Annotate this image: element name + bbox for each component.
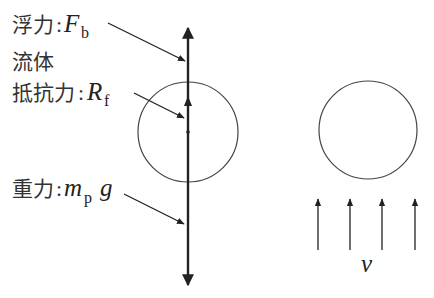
svg-text:重力: 重力 [12,177,54,201]
svg-text::: : [56,176,62,201]
svg-text:浮力: 浮力 [12,13,54,37]
svg-text:g: g [100,174,113,201]
fluid-force-diagram: 浮力 : F b 流体 抵抗力 : R f 重力 : m p g v [0,0,434,298]
gravity-label: 重力 : m p g [12,174,113,207]
buoyancy-label: 浮力 : F b [12,10,89,41]
drag-label: 流体 抵抗力 : R f [12,50,110,109]
svg-text:f: f [104,92,110,109]
svg-text::: : [78,80,84,105]
buoyancy-leader-arrow [108,23,185,61]
svg-text:流体: 流体 [12,50,54,74]
particle-center-dot [186,130,190,134]
svg-text:R: R [86,78,102,105]
svg-text:b: b [81,24,89,41]
gravity-leader-arrow [124,194,184,224]
velocity-label: v [361,250,373,277]
svg-text::: : [56,12,62,37]
flow-velocity-arrows [318,199,415,250]
svg-text:p: p [84,189,92,207]
drag-force-arrowhead [184,96,192,106]
svg-text:F: F [63,10,80,37]
svg-text:m: m [64,174,82,201]
particle-circle-right [319,81,417,179]
svg-text:抵抗力: 抵抗力 [12,81,75,105]
